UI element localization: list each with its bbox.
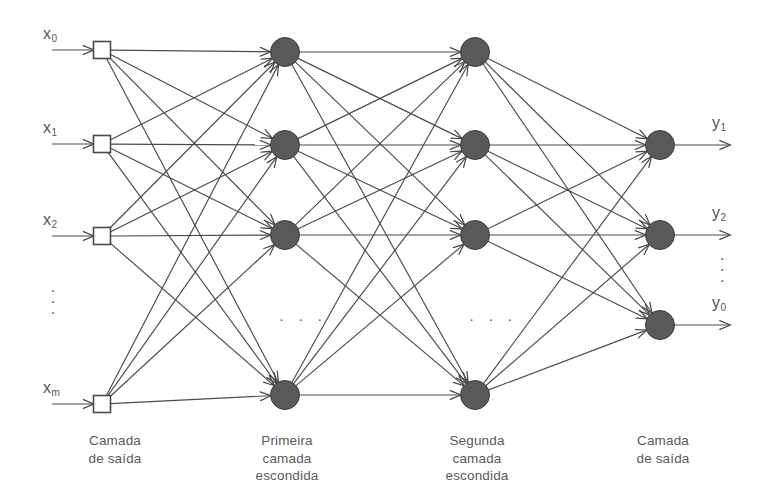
layer-caption-second-hidden: Segunda camada escondida [418, 432, 536, 485]
edge-input-layer-1-to-first-hidden-layer-0 [110, 59, 272, 141]
first-hidden-ellipsis: · · · [279, 310, 327, 327]
edge-second-hidden-layer-3-to-output-layer-2 [489, 330, 647, 390]
second-hidden-layer-node-0 [461, 38, 490, 67]
edge-input-layer-2-to-first-hidden-layer-0 [108, 62, 275, 230]
output-label-y2: y2 [712, 204, 726, 222]
second-hidden-layer-node-3 [461, 381, 490, 410]
edge-second-hidden-layer-0-to-output-layer-2 [483, 64, 652, 313]
second-hidden-layer-node-2 [461, 221, 490, 250]
first-hidden-layer-node-2 [271, 221, 300, 250]
layer-caption-output: Camada de saída [608, 432, 718, 467]
edge-input-layer-3-to-first-hidden-layer-3 [110, 396, 270, 404]
second-hidden-layer-node-1 [461, 131, 490, 160]
input-ellipsis: ··· [46, 285, 60, 318]
second-hidden-ellipsis: · · · [469, 310, 517, 327]
edge-input-layer-0-to-first-hidden-layer-1 [110, 54, 273, 138]
output-layer-node-1 [646, 221, 675, 250]
input-label-xm: xm [43, 379, 59, 397]
network-graph [0, 0, 770, 501]
output-layer-node-2 [646, 311, 675, 340]
output-label-y1: y1 [712, 114, 726, 132]
edge-second-hidden-layer-0-to-output-layer-0 [488, 59, 647, 139]
edge-second-hidden-layer-2-to-output-layer-2 [488, 241, 647, 318]
edge-input-layer-3-to-first-hidden-layer-2 [108, 245, 274, 398]
node-group [94, 38, 675, 413]
first-hidden-layer-node-3 [271, 381, 300, 410]
edge-input-layer-3-to-first-hidden-layer-0 [106, 65, 278, 397]
edge-input-layer-2-to-first-hidden-layer-3 [108, 242, 274, 386]
input-label-x2: x2 [43, 211, 57, 229]
edge-input-layer-1-to-first-hidden-layer-1 [111, 144, 271, 145]
input-node-1 [94, 136, 111, 153]
input-node-0 [94, 42, 111, 59]
edge-second-hidden-layer-0-to-output-layer-1 [485, 62, 649, 225]
edge-input-layer-0-to-first-hidden-layer-3 [106, 58, 278, 383]
edge-input-layer-3-to-first-hidden-layer-1 [107, 157, 277, 397]
input-node-3 [94, 396, 111, 413]
input-label-x0: x0 [43, 25, 57, 43]
edge-group [52, 50, 730, 404]
first-hidden-layer-node-0 [271, 38, 300, 67]
output-ellipsis: ··· [715, 253, 729, 286]
edge-second-hidden-layer-3-to-output-layer-0 [484, 157, 652, 384]
edge-input-layer-0-to-first-hidden-layer-0 [111, 50, 271, 52]
output-label-y0: y0 [712, 294, 726, 312]
edge-input-layer-2-to-first-hidden-layer-2 [111, 235, 271, 236]
neural-network-diagram: x0 x1 x2 xm ··· y1 y2 y0 ··· · · · · · ·… [0, 0, 770, 501]
edge-input-layer-2-to-first-hidden-layer-1 [110, 151, 272, 232]
output-layer-node-0 [646, 131, 675, 160]
input-node-2 [94, 228, 111, 245]
layer-caption-input: Camada de saída [60, 432, 170, 467]
input-label-x1: x1 [43, 119, 57, 137]
edge-input-layer-0-to-first-hidden-layer-2 [108, 56, 275, 225]
layer-caption-first-hidden: Primeira camada escondida [228, 432, 346, 485]
first-hidden-layer-node-1 [271, 131, 300, 160]
